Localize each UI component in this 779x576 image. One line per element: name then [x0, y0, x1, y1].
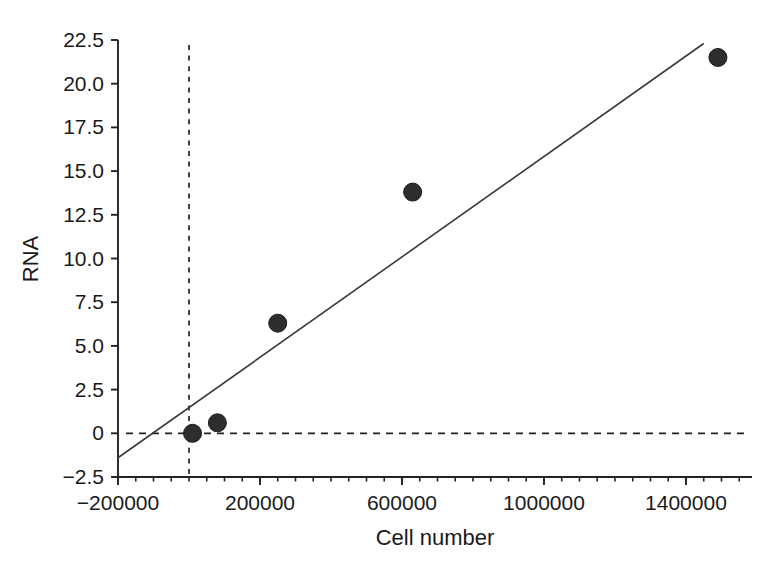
- x-axis-tick-label: 1000000: [503, 491, 585, 514]
- y-axis-tick-label: 20.0: [63, 72, 104, 95]
- x-axis-tick-label: 600000: [367, 491, 437, 514]
- y-axis-tick-label: 22.5: [63, 28, 104, 51]
- data-point: [709, 48, 727, 66]
- scatter-chart: −2.502.55.07.510.012.515.017.520.022.5−2…: [0, 0, 779, 576]
- rna-vs-cell-number-figure: −2.502.55.07.510.012.515.017.520.022.5−2…: [0, 0, 779, 576]
- y-axis-tick-label: 10.0: [63, 247, 104, 270]
- x-axis-title: Cell number: [376, 525, 495, 550]
- plot-area: −2.502.55.07.510.012.515.017.520.022.5−2…: [63, 28, 752, 514]
- y-axis-tick-label: 0: [92, 421, 104, 444]
- x-axis-tick-label: −200000: [77, 491, 159, 514]
- data-point: [184, 424, 202, 442]
- data-point: [404, 183, 422, 201]
- x-axis-tick-label: 1400000: [645, 491, 727, 514]
- y-axis-title: RNA: [18, 235, 43, 282]
- x-axis-tick-label: 200000: [225, 491, 295, 514]
- y-axis-tick-label: 17.5: [63, 115, 104, 138]
- y-axis-tick-label: 12.5: [63, 203, 104, 226]
- data-point: [269, 314, 287, 332]
- regression-line: [118, 43, 704, 457]
- y-axis-tick-label: −2.5: [63, 465, 104, 488]
- data-point: [208, 414, 226, 432]
- y-axis-tick-label: 15.0: [63, 159, 104, 182]
- y-axis-tick-label: 7.5: [75, 290, 104, 313]
- y-axis-tick-label: 5.0: [75, 334, 104, 357]
- y-axis-tick-label: 2.5: [75, 378, 104, 401]
